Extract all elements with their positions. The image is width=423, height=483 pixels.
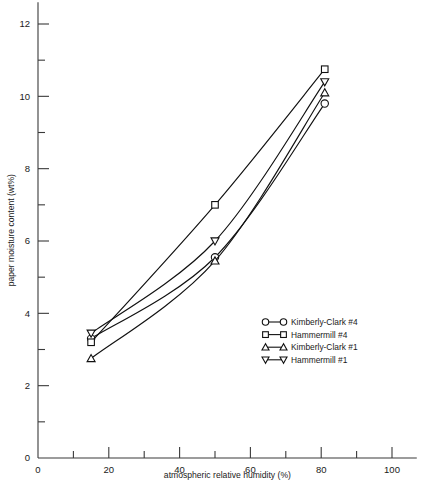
y-axis-title: paper moisture content (wt%) [6,174,16,286]
y-tick-label: 10 [19,91,30,102]
chart-axes [38,2,417,458]
legend-item[interactable]: Kimberly-Clark #1 [262,342,358,352]
y-tick-label: 2 [25,380,30,391]
legend-label: Kimberly-Clark #4 [291,317,358,327]
legend-label: Hammermill #1 [291,355,348,365]
y-axis-ticks: 024681012 [19,18,49,463]
y-tick-label: 0 [25,452,30,463]
data-marker-square [281,332,287,338]
x-tick-label: 100 [384,464,400,475]
legend-label: Hammermill #4 [291,330,348,340]
series-3 [87,79,329,337]
data-marker-square [321,66,328,73]
y-tick-label: 6 [25,235,30,246]
data-marker-circle [321,100,328,107]
series-line [91,69,325,342]
data-marker-triangle-down [321,79,329,86]
x-tick-label: 80 [316,464,327,475]
legend-item[interactable]: Kimberly-Clark #4 [262,317,358,327]
chart-figure: 024681012020406080100atmospheric relativ… [0,0,423,483]
y-tick-label: 8 [25,163,30,174]
x-tick-label: 20 [104,464,115,475]
y-tick-label: 4 [25,308,30,319]
data-marker-square [88,339,95,346]
legend-label: Kimberly-Clark #1 [291,342,358,352]
data-marker-square [263,332,269,338]
data-marker-circle [262,319,268,325]
x-tick-label: 0 [35,464,40,475]
legend-item[interactable]: Hammermill #1 [262,355,348,365]
data-marker-square [212,202,219,209]
data-marker-triangle-up [321,89,329,96]
legend-item[interactable]: Hammermill #4 [263,330,348,340]
y-tick-label: 12 [19,18,30,29]
series-1 [88,66,328,346]
chart-legend: Kimberly-Clark #4Hammermill #4Kimberly-C… [262,317,358,365]
x-axis-title: atmospheric relative humidity (%) [164,470,291,480]
data-marker-triangle-up [87,355,95,362]
data-marker-circle [280,319,286,325]
chart-plot-area: 024681012020406080100atmospheric relativ… [0,0,423,483]
series-line [91,82,325,333]
